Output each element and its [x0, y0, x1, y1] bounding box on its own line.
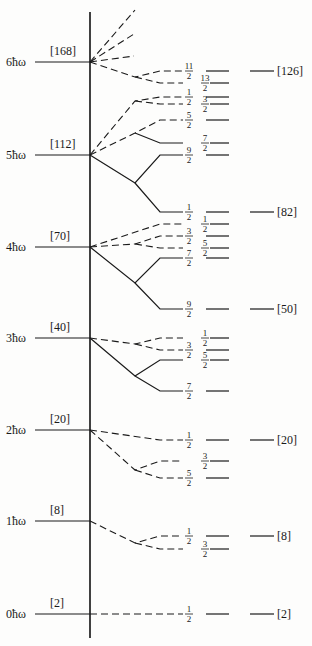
j-denominator: 2 — [203, 83, 208, 93]
j-numerator: 13 — [201, 73, 211, 83]
shell-magic-number: [168] — [50, 44, 76, 58]
splitting-branch — [90, 56, 134, 62]
j-numerator: 1 — [187, 202, 192, 212]
magic-number-label: [2] — [277, 607, 291, 621]
j-numerator: 3 — [203, 94, 208, 104]
oscillator-shell: 4ħω[70] — [6, 229, 90, 254]
j-denominator: 2 — [187, 391, 192, 401]
j-numerator: 9 — [187, 145, 192, 155]
splitting-branch — [90, 430, 183, 440]
j-denominator: 2 — [187, 440, 192, 450]
j-numerator: 1 — [203, 328, 208, 338]
oscillator-shell: 0ħω[2] — [6, 596, 90, 621]
j-level: 32 — [201, 451, 229, 471]
splitting-branch — [135, 376, 183, 391]
j-denominator: 2 — [203, 549, 208, 559]
j-denominator: 2 — [187, 155, 192, 165]
j-denominator: 2 — [187, 258, 192, 268]
j-numerator: 1 — [187, 430, 192, 440]
shell-magic-number: [112] — [50, 137, 76, 151]
j-numerator: 7 — [187, 381, 192, 391]
splitting-branch — [135, 77, 183, 83]
j-numerator: 7 — [187, 248, 192, 258]
shell-energy-label: 6ħω — [6, 55, 26, 69]
magic-number: [82] — [250, 205, 297, 219]
j-denominator: 2 — [203, 360, 208, 370]
j-denominator: 2 — [187, 614, 192, 624]
shell-energy-label: 5ħω — [6, 148, 26, 162]
j-denominator: 2 — [187, 478, 192, 488]
j-numerator: 3 — [203, 451, 208, 461]
j-level: 52 — [201, 350, 229, 370]
splitting-branch — [135, 133, 183, 143]
j-denominator: 2 — [187, 350, 192, 360]
magic-number-label: [20] — [277, 433, 297, 447]
oscillator-shell: 3ħω[40] — [6, 320, 90, 345]
magic-number: [126] — [250, 64, 303, 78]
shell-magic-number: [2] — [50, 596, 64, 610]
j-levels: 1121321232527292121232527292123252721232… — [185, 61, 229, 624]
oscillator-shell: 1ħω[8] — [6, 503, 90, 528]
splitting-branch — [135, 344, 183, 350]
magic-number: [50] — [250, 302, 297, 316]
j-numerator: 5 — [187, 468, 192, 478]
j-numerator: 11 — [185, 61, 194, 71]
j-numerator: 5 — [203, 238, 208, 248]
j-denominator: 2 — [203, 461, 208, 471]
shell-magic-number: [20] — [50, 412, 70, 426]
splitting-branch — [90, 62, 183, 77]
shell-magic-number: [70] — [50, 229, 70, 243]
j-numerator: 3 — [187, 340, 192, 350]
splitting-branch — [135, 183, 183, 212]
j-denominator: 2 — [187, 536, 192, 546]
j-level: 12 — [185, 430, 229, 450]
splitting-branch — [90, 338, 183, 344]
splitting-branch — [135, 283, 183, 309]
j-denominator: 2 — [203, 104, 208, 114]
splitting-branch — [90, 247, 183, 283]
j-level: 72 — [185, 381, 229, 401]
j-denominator: 2 — [187, 236, 192, 246]
j-level: 52 — [185, 468, 229, 488]
j-numerator: 1 — [187, 604, 192, 614]
right-magic-numbers: [126][82][50][20][8][2] — [250, 64, 303, 621]
j-level: 132 — [201, 73, 230, 93]
j-numerator: 5 — [203, 350, 208, 360]
j-denominator: 2 — [187, 212, 192, 222]
j-level: 72 — [201, 133, 229, 153]
energy-level-diagram-svg: 6ħω[168]5ħω[112]4ħω[70]3ħω[40]2ħω[20]1ħω… — [0, 0, 312, 646]
j-numerator: 1 — [187, 526, 192, 536]
splitting-branch — [135, 244, 183, 248]
magic-number-label: [8] — [277, 529, 291, 543]
splitting-branch — [90, 10, 135, 62]
shell-energy-label: 1ħω — [6, 514, 26, 528]
splitting-branch — [90, 155, 183, 183]
magic-number-label: [50] — [277, 302, 297, 316]
shell-energy-label: 3ħω — [6, 331, 26, 345]
j-denominator: 2 — [187, 309, 192, 319]
j-numerator: 3 — [203, 539, 208, 549]
j-level: 12 — [201, 328, 229, 348]
j-level: 92 — [185, 299, 229, 319]
magic-number-label: [126] — [277, 64, 303, 78]
j-level: 12 — [201, 214, 229, 234]
magic-number: [2] — [250, 607, 291, 621]
splitting-branch — [135, 470, 183, 478]
shell-energy-label: 0ħω — [6, 607, 26, 621]
j-numerator: 3 — [187, 226, 192, 236]
splitting-branch — [90, 236, 183, 247]
splitting-branch — [90, 97, 183, 155]
oscillator-shells: 6ħω[168]5ħω[112]4ħω[70]3ħω[40]2ħω[20]1ħω… — [6, 44, 90, 621]
splitting-branch — [90, 521, 183, 543]
j-numerator: 7 — [203, 133, 208, 143]
shell-energy-label: 4ħω — [6, 240, 26, 254]
shell-energy-label: 2ħω — [6, 423, 26, 437]
magic-number: [8] — [250, 529, 291, 543]
j-denominator: 2 — [203, 338, 208, 348]
splitting-branch — [135, 543, 183, 549]
j-denominator: 2 — [187, 97, 192, 107]
shell-magic-number: [8] — [50, 503, 64, 517]
oscillator-shell: 6ħω[168] — [6, 44, 90, 69]
j-denominator: 2 — [187, 120, 192, 130]
shell-magic-number: [40] — [50, 320, 70, 334]
